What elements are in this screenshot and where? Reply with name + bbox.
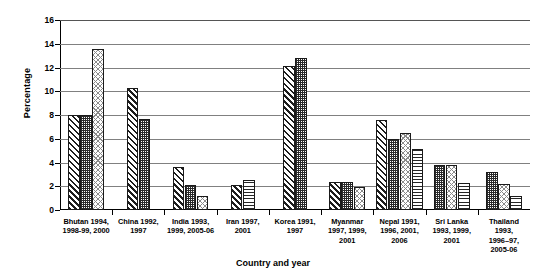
- bar: [231, 185, 243, 210]
- bar-group: [60, 20, 112, 210]
- x-category-label-line: 1996, 2001,: [369, 226, 429, 235]
- bar: [388, 139, 400, 210]
- x-tick-mark: [217, 210, 218, 215]
- x-category-label-line: 1997: [108, 226, 168, 235]
- bar-group: [164, 20, 216, 210]
- x-category-label: Sri Lanka1993, 1999,2001: [422, 217, 482, 245]
- x-category-label-line: 2001: [317, 236, 377, 245]
- x-category-label-line: 2005-06: [474, 245, 534, 254]
- x-category-label-line: 1993, 1999,: [422, 226, 482, 235]
- bar: [446, 165, 458, 210]
- x-category-label-line: 2001: [213, 226, 273, 235]
- x-tick-mark: [426, 210, 427, 215]
- x-tick-mark: [373, 210, 374, 215]
- bar: [376, 120, 388, 210]
- bar: [127, 88, 139, 210]
- x-category-label-line: 2006: [369, 236, 429, 245]
- x-tick-mark: [269, 210, 270, 215]
- x-category-label-line: Sri Lanka: [422, 217, 482, 226]
- y-tick-label: 16: [32, 16, 54, 25]
- y-axis-title: Percentage: [22, 38, 32, 148]
- x-tick-mark: [478, 210, 479, 215]
- bar-group: [426, 20, 478, 210]
- x-category-label-line: Nepal 1991,: [369, 217, 429, 226]
- x-tick-mark: [321, 210, 322, 215]
- bar: [139, 119, 151, 210]
- x-category-label: Thailand1993,1996–97,2005-06: [474, 217, 534, 255]
- y-tick-label: 0: [32, 206, 54, 215]
- x-tick-mark: [164, 210, 165, 215]
- x-category-label-line: Myanmar: [317, 217, 377, 226]
- bar: [68, 115, 80, 210]
- bar: [197, 196, 209, 210]
- x-category-label-line: 1996–97,: [474, 236, 534, 245]
- y-tick-label: 4: [32, 159, 54, 168]
- bar: [243, 180, 255, 210]
- bar: [354, 187, 366, 210]
- y-tick-mark: [55, 210, 60, 211]
- x-category-label-line: 1998-99, 2000: [56, 226, 116, 235]
- y-tick-label: 10: [32, 87, 54, 96]
- x-category-label: China 1992,1997: [108, 217, 168, 236]
- x-category-label: Korea 1991,1997: [265, 217, 325, 236]
- x-category-label: Iran 1997,2001: [213, 217, 273, 236]
- y-tick-label: 8: [32, 111, 54, 120]
- bar-group: [373, 20, 425, 210]
- bar: [510, 196, 522, 210]
- y-tick-label: 14: [32, 40, 54, 49]
- x-category-label-line: Bhutan 1994,: [56, 217, 116, 226]
- x-category-label: Nepal 1991,1996, 2001,2006: [369, 217, 429, 245]
- bar: [486, 172, 498, 210]
- x-category-label: India 1993,1999, 2005-06: [160, 217, 220, 236]
- bars-layer: [60, 20, 530, 210]
- x-category-label: Bhutan 1994,1998-99, 2000: [56, 217, 116, 236]
- x-tick-mark: [112, 210, 113, 215]
- bar: [412, 149, 424, 210]
- bar-group: [478, 20, 530, 210]
- bar-group: [112, 20, 164, 210]
- x-category-label-line: Korea 1991,: [265, 217, 325, 226]
- x-category-label-line: 1993,: [474, 226, 534, 235]
- bar: [295, 58, 307, 210]
- bar: [92, 49, 104, 211]
- bar-chart: Percentage 0246810121416 Bhutan 1994,199…: [0, 0, 546, 277]
- x-axis-title: Country and year: [0, 258, 546, 268]
- bar-group: [321, 20, 373, 210]
- bar: [173, 167, 185, 210]
- x-category-label-line: India 1993,: [160, 217, 220, 226]
- x-category-label-line: Thailand: [474, 217, 534, 226]
- y-tick-label: 6: [32, 135, 54, 144]
- x-category-label-line: 1999, 2005-06: [160, 226, 220, 235]
- x-category-label-line: 1997: [265, 226, 325, 235]
- bar: [434, 165, 446, 210]
- x-category-label-line: 1997, 1999,: [317, 226, 377, 235]
- y-tick-label: 2: [32, 182, 54, 191]
- bar: [329, 182, 341, 211]
- bar: [283, 66, 295, 210]
- bar: [185, 185, 197, 210]
- bar: [458, 183, 470, 210]
- x-category-label-line: Iran 1997,: [213, 217, 273, 226]
- bar-group: [217, 20, 269, 210]
- x-category-label-line: China 1992,: [108, 217, 168, 226]
- bar: [341, 182, 353, 211]
- bar: [80, 115, 92, 210]
- y-tick-label: 12: [32, 64, 54, 73]
- bar: [400, 133, 412, 210]
- x-category-label: Myanmar1997, 1999,2001: [317, 217, 377, 245]
- bar: [498, 184, 510, 210]
- x-category-label-line: 2001: [422, 236, 482, 245]
- bar-group: [269, 20, 321, 210]
